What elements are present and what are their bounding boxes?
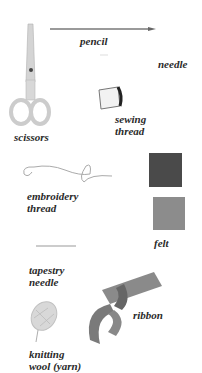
embroidery-thread-image — [20, 160, 116, 188]
needle-image — [100, 53, 110, 57]
tapestry-needle-image — [36, 244, 78, 248]
sewing-thread-label: sewing thread — [115, 113, 146, 137]
knitting-wool-image — [24, 298, 64, 344]
felt-dark-swatch — [149, 153, 182, 187]
ribbon-label: ribbon — [133, 309, 163, 321]
sewing-thread-image — [96, 84, 126, 112]
embroidery-thread-label: embroidery thread — [27, 190, 78, 214]
pencil-image — [48, 26, 158, 32]
needle-label: needle — [158, 58, 187, 70]
tapestry-needle-label: tapestry needle — [29, 264, 64, 288]
scissors-image — [8, 22, 52, 127]
felt-label: felt — [154, 237, 169, 249]
knitting-wool-label: knitting wool (yarn) — [29, 348, 81, 372]
pencil-label: pencil — [80, 35, 108, 47]
scissors-label: scissors — [14, 131, 49, 143]
felt-light-swatch — [153, 197, 185, 230]
